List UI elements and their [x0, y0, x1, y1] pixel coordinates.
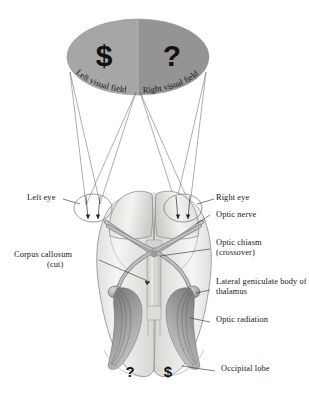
left-eye: [74, 194, 112, 222]
right-eye-label: Right eye: [216, 193, 249, 203]
left-occipital-question-symbol: ?: [125, 363, 134, 380]
right-occipital-dollar-symbol: $: [164, 363, 173, 380]
lateral-geniculate-label: Lateral geniculate body of thalamus: [216, 277, 308, 296]
visual-pathway-figure: Left visual field Right visual field $ ?: [0, 0, 309, 404]
optic-chiasm-node: [151, 251, 157, 257]
corpus-callosum-label: Corpus callosum: [14, 250, 72, 260]
left-eye-label: Left eye: [27, 193, 55, 203]
occipital-lobe-label: Occipital lobe: [221, 364, 281, 374]
optic-chiasm-sublabel: (crossover): [216, 248, 255, 258]
right-field-question-symbol: ?: [163, 39, 181, 72]
optic-nerve-label: Optic nerve: [216, 210, 256, 220]
optic-chiasm-label: Optic chiasm: [216, 238, 262, 248]
corpus-callosum-sublabel: (cut): [47, 260, 63, 270]
optic-radiation-label: Optic radiation: [216, 315, 276, 325]
left-field-dollar-symbol: $: [96, 39, 113, 72]
